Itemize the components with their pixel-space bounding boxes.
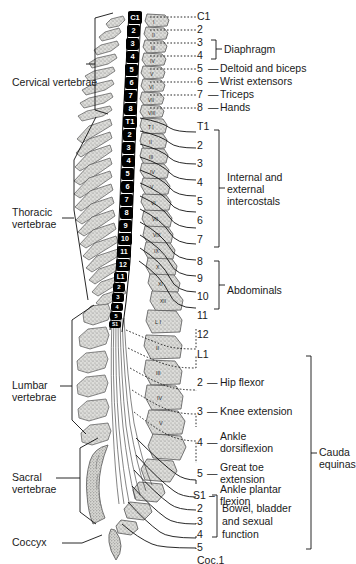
cord-segment-box: 2 <box>113 283 125 292</box>
nerve-number-t12: 12 <box>197 329 209 340</box>
nerve-number-t7: 7 <box>197 234 203 245</box>
label-lumbar-vertebrae-line2: vertebrae <box>12 392 56 403</box>
cord-segment-box: 5 <box>110 312 122 320</box>
nerve-number-s1: S1 <box>193 490 206 501</box>
cord-segment-box: T1 <box>123 116 137 128</box>
dash-deltoid: — <box>208 63 219 74</box>
function-hip-flexor: Hip flexor <box>220 377 264 389</box>
nerve-number-t9: 9 <box>197 273 203 284</box>
cord-segment-box: 2 <box>123 129 136 141</box>
nerve-number-c5: 5 <box>197 63 203 74</box>
function-wrist-extensors: Wrist extensors <box>220 76 292 88</box>
nerve-number-c3: 3 <box>197 37 203 48</box>
vertebra-numeral: XI <box>158 279 163 290</box>
dash-triceps: — <box>208 89 219 100</box>
vertebra-numeral: V <box>159 418 163 429</box>
nerve-number-l3: 3 <box>197 406 203 417</box>
dash-plantar: – <box>209 490 215 501</box>
vertebra-numeral: IV <box>157 393 162 404</box>
cord-segment-box: 4 <box>122 155 135 167</box>
vertebra-numeral: V <box>150 69 153 80</box>
cord-segment-box: 8 <box>120 207 133 219</box>
cord-segment-box: 8 <box>124 103 137 115</box>
vertebra-numeral: II <box>152 30 155 41</box>
cord-segment-box: 5 <box>121 168 134 180</box>
function-diaphragm: Diaphragm <box>224 44 275 56</box>
function-ankle-plantar-line1: Ankle plantar <box>220 484 281 496</box>
nerve-number-c8: 8 <box>197 102 203 113</box>
function-intercostals-line3: intercostals <box>227 196 280 208</box>
vertebra-numeral: T I <box>148 122 154 133</box>
function-ankle-dorsiflexion-line1: Ankle <box>220 431 246 443</box>
nerve-number-c4: 4 <box>197 50 203 61</box>
vertebra-numeral: VII <box>148 95 154 106</box>
cord-segment-box: S1 <box>109 321 121 328</box>
vertebra-numeral: VIII <box>148 108 156 119</box>
function-bowel-line1: Bowel, bladder <box>222 503 291 515</box>
cord-segment-box: 7 <box>120 194 133 206</box>
vertebra-numeral: V <box>150 182 153 193</box>
vertebra-numeral: III <box>151 43 155 54</box>
nerve-number-coc1: Coc.1 <box>197 555 224 564</box>
nerve-number-l4: 4 <box>197 437 203 448</box>
function-hands: Hands <box>220 102 250 114</box>
dash-wrist: — <box>208 76 219 87</box>
cord-segment-box: 11 <box>117 246 131 258</box>
dash-ankle: — <box>207 437 218 448</box>
label-sacral-vertebrae-line2: vertebrae <box>12 484 56 495</box>
nerve-number-t4: 4 <box>197 177 203 188</box>
vertebra-numeral: IV <box>150 167 155 178</box>
nerve-number-s4: 4 <box>197 529 203 540</box>
vertebra-numeral: VI <box>151 198 156 209</box>
dash-greattoe: — <box>207 468 218 479</box>
function-abdominals: Abdominals <box>227 285 282 297</box>
nerve-number-t10: 10 <box>197 291 209 302</box>
vertebra-numeral: I <box>153 17 154 28</box>
cord-segment-box: 3 <box>122 142 135 154</box>
nerve-number-c6: 6 <box>197 76 203 87</box>
function-cauda-equina-line2: equinas <box>319 459 356 471</box>
nerve-number-s2: 2 <box>197 503 203 514</box>
label-cervical-vertebrae: Cervical vertebrae <box>12 77 97 88</box>
vertebra-numeral: II <box>156 343 159 354</box>
vertebra-numeral: VII <box>152 214 158 225</box>
nerve-number-l5: 5 <box>197 468 203 479</box>
cord-segment-box: 3 <box>126 38 139 50</box>
vertebra-numeral: II <box>149 137 152 148</box>
nerve-number-c1: C1 <box>197 11 210 22</box>
nerve-number-t8: 8 <box>197 256 203 267</box>
sacrum <box>86 445 108 524</box>
vertebra-numeral: III <box>156 368 161 379</box>
dash-hands: — <box>208 102 219 113</box>
coccyx-bone <box>109 529 121 560</box>
label-thoracic-vertebrae-line1: Thoracic <box>12 207 52 218</box>
vertebra-numeral: XII <box>160 296 166 307</box>
label-lumbar-vertebrae-line1: Lumbar <box>12 380 48 391</box>
nerve-number-c2: 2 <box>197 24 203 35</box>
function-ankle-dorsiflexion-line2: dorsiflexion <box>220 443 273 455</box>
cord-segment-box: 4 <box>126 51 139 63</box>
function-bowel-line2: and sexual <box>222 516 273 528</box>
dash-knee: — <box>207 406 218 417</box>
nerve-number-t1: T1 <box>197 121 209 132</box>
cord-segment-box: 6 <box>121 181 134 193</box>
label-thoracic-vertebrae-line2: vertebrae <box>12 219 56 230</box>
nerve-number-s5: 5 <box>197 542 203 553</box>
function-bowel-line3: function <box>222 529 259 541</box>
nerve-number-t2: 2 <box>197 140 203 151</box>
nerve-number-l1: L1 <box>197 349 209 360</box>
vertebra-numeral: III <box>149 152 153 163</box>
function-intercostals-line2: external <box>227 184 264 196</box>
label-sacral-vertebrae-line1: Sacral <box>12 472 42 483</box>
cord-segment-box: 9 <box>119 220 132 232</box>
cord-segment-box: 5 <box>125 64 138 76</box>
function-deltoid-biceps: Deltoid and biceps <box>220 63 306 75</box>
vertebra-numeral: IV <box>150 56 155 67</box>
vertebra-numeral: VIII <box>153 230 161 241</box>
cord-segment-box: 2 <box>127 25 140 37</box>
cord-segment-box: C1 <box>128 11 142 24</box>
cord-segment-box: 4 <box>111 303 123 311</box>
cord-segment-box: 3 <box>112 293 124 302</box>
nerve-number-t6: 6 <box>197 215 203 226</box>
